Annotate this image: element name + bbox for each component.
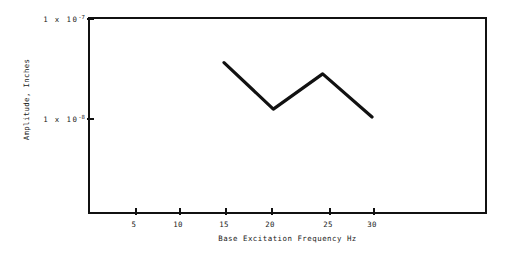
x-tick-label-5: 5 xyxy=(132,220,137,229)
y-tick-mantissa-1e-7: 1 x 10 xyxy=(43,15,78,24)
x-tick-mark-10 xyxy=(179,208,181,215)
x-tick-label-15: 15 xyxy=(219,220,229,229)
y-tick-exponent-1e-7: -7 xyxy=(78,14,85,20)
x-tick-label-30: 30 xyxy=(367,220,377,229)
x-tick-label-25: 25 xyxy=(323,220,333,229)
y-tick-mark-1e-7 xyxy=(87,18,94,20)
plot-frame: 1 x 10-7 1 x 10-8 xyxy=(88,17,487,214)
x-axis-title: Base Excitation Frequency Hz xyxy=(88,234,487,243)
y-tick-mantissa-1e-8: 1 x 10 xyxy=(43,115,78,124)
x-tick-mark-5 xyxy=(135,208,137,215)
x-tick-label-10: 10 xyxy=(173,220,183,229)
chart-screenshot: 1 x 10-7 1 x 10-8 5 10 15 20 25 30 Ampli… xyxy=(0,0,516,262)
y-tick-exponent-1e-8: -8 xyxy=(78,114,85,120)
y-tick-label-1e-8: 1 x 10-8 xyxy=(43,114,85,124)
x-tick-label-20: 20 xyxy=(265,220,275,229)
x-tick-mark-20 xyxy=(271,208,273,215)
x-tick-mark-25 xyxy=(329,208,331,215)
y-axis-title: Amplitude, Inches xyxy=(22,30,31,170)
y-tick-mark-1e-8 xyxy=(87,118,94,120)
y-tick-label-1e-7: 1 x 10-7 xyxy=(43,14,85,24)
x-tick-mark-30 xyxy=(373,208,375,215)
x-tick-mark-15 xyxy=(225,208,227,215)
